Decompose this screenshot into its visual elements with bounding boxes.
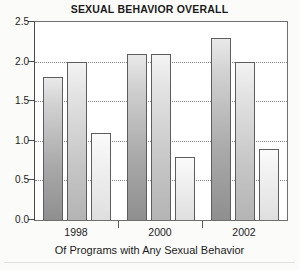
y-axis-tick-label: 2.5 [0, 16, 29, 27]
bar [43, 77, 63, 220]
x-axis-group-label: 2000 [130, 226, 190, 238]
bar [151, 54, 171, 220]
x-axis-separator-tick [202, 221, 203, 228]
x-axis-group-label: 1998 [46, 226, 106, 238]
bar [67, 62, 87, 220]
caption-divider [4, 262, 295, 263]
y-axis-tick-label: 0.0 [0, 214, 29, 225]
y-axis-tick-label: 0.5 [0, 174, 29, 185]
bar [259, 149, 279, 220]
bar [211, 38, 231, 220]
bar [235, 62, 255, 220]
chart-title: SEXUAL BEHAVIOR OVERALL [0, 3, 299, 15]
y-axis-tick-label: 2.0 [0, 55, 29, 66]
x-axis-separator-tick [118, 221, 119, 228]
plot-area [34, 21, 288, 221]
bar [175, 157, 195, 220]
x-axis-caption: Of Programs with Any Sexual Behavior [0, 244, 299, 256]
bar [91, 133, 111, 220]
bars-layer [35, 22, 287, 220]
chart-figure: SEXUAL BEHAVIOR OVERALL 0.00.51.01.52.02… [0, 0, 299, 270]
y-axis-tick-label: 1.5 [0, 95, 29, 106]
bar [127, 54, 147, 220]
y-axis-tick-label: 1.0 [0, 134, 29, 145]
x-axis-group-label: 2002 [214, 226, 274, 238]
